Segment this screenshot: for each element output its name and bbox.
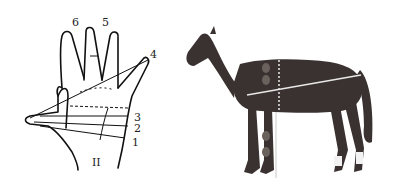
hand-drawing: 1 2 3 4 5 6 II: [0, 0, 170, 190]
label-5: 5: [102, 16, 109, 29]
hand-labels: 1 2 3 4 5 6 II: [72, 16, 157, 169]
label-3: 3: [134, 111, 141, 124]
horse-diagram: [180, 0, 398, 190]
horse-photo: [180, 0, 398, 190]
label-1: 1: [132, 136, 139, 149]
label-4: 4: [150, 48, 157, 61]
label-roman-ii: II: [92, 156, 101, 169]
label-6: 6: [72, 16, 79, 29]
hand-diagram: 1 2 3 4 5 6 II: [0, 0, 170, 190]
